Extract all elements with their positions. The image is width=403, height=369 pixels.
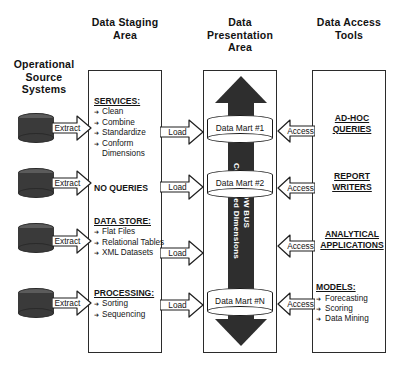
staging-block-data-store: DATA STORE: Flat Files Relational Tables… [94, 216, 164, 259]
access-tool-heading-line: ANALYTICAL [310, 229, 394, 240]
list-item: Relational Tables [94, 238, 164, 248]
staging-block-services: SERVICES: Clean Combine Standardize Conf… [94, 96, 146, 159]
list-item: Sorting [94, 299, 154, 309]
cylinder-bottom [18, 308, 54, 318]
staging-block-heading: SERVICES: [94, 96, 146, 106]
access-tool-ad-hoc-queries: AD-HOC QUERIES [316, 113, 388, 134]
access-tool-heading-line: APPLICATIONS [310, 240, 394, 251]
column-header-data-access-tools: Data Access Tools [306, 16, 392, 41]
dw-bus-label-line1: DW BUS [242, 194, 251, 228]
header-line: Operational [4, 58, 84, 71]
access-arrow: Access [277, 176, 315, 200]
staging-block-heading: DATA STORE: [94, 216, 164, 226]
arrow-head-up [215, 76, 267, 103]
list-item: XML Datasets [94, 248, 164, 258]
staging-block-no-queries: NO QUERIES [94, 183, 148, 193]
staging-block-list: Sorting Sequencing [94, 299, 154, 320]
source-database-cylinder [18, 223, 54, 253]
data-mart-cylinder: Data Mart #2 [207, 170, 273, 198]
access-tool-analytical-applications: ANALYTICAL APPLICATIONS [310, 229, 394, 250]
cylinder-bottom [207, 306, 273, 316]
column-header-data-staging-area: Data Staging Area [86, 16, 164, 41]
extract-arrow: Extract [52, 290, 92, 316]
list-item: Combine [94, 118, 146, 128]
header-line: Source [4, 71, 84, 84]
header-line: Data Access [306, 16, 392, 29]
load-arrow: Load [160, 119, 204, 145]
source-database-cylinder [18, 113, 54, 143]
access-tool-heading-line: QUERIES [316, 124, 388, 135]
list-item: Data Mining [316, 314, 394, 324]
header-line: Data [199, 16, 281, 29]
access-tool-heading-line: REPORT [316, 171, 388, 182]
access-tool-heading-line: MODELS: [316, 282, 394, 293]
access-tool-list: Forecasting Scoring Data Mining [316, 294, 394, 325]
load-arrow: Load [160, 240, 204, 266]
header-line: Systems [4, 83, 84, 96]
staging-block-heading: NO QUERIES [94, 183, 148, 193]
cylinder-bottom [207, 188, 273, 198]
extract-arrow: Extract [52, 115, 92, 141]
header-line: Presentation [199, 29, 281, 42]
access-tool-models: MODELS: Forecasting Scoring Data Mining [316, 282, 394, 325]
access-arrow: Access [277, 119, 315, 143]
cylinder-bottom [207, 133, 273, 143]
cylinder-bottom [18, 243, 54, 253]
header-line: Data Staging [86, 16, 164, 29]
data-mart-label: Data Mart #1 [207, 123, 273, 133]
staging-block-processing: PROCESSING: Sorting Sequencing [94, 288, 154, 320]
extract-arrow: Extract [52, 170, 92, 196]
data-mart-label: Data Mart #2 [207, 178, 273, 188]
access-tool-heading-line: AD-HOC [316, 113, 388, 124]
source-database-cylinder [18, 168, 54, 198]
data-mart-cylinder: Data Mart #N [207, 288, 273, 316]
data-mart-cylinder: Data Mart #1 [207, 115, 273, 143]
list-item: Scoring [316, 304, 394, 314]
load-arrow: Load [160, 174, 204, 200]
arrow-head-down [215, 319, 267, 346]
list-item: Clean [94, 107, 146, 117]
access-tool-heading-line: WRITERS [316, 182, 388, 193]
header-line: Area [199, 41, 281, 54]
staging-block-list: Flat Files Relational Tables XML Dataset… [94, 227, 164, 258]
load-arrow: Load [160, 292, 204, 318]
list-item: Conform [94, 139, 146, 149]
architecture-diagram: Operational Source Systems Data Staging … [0, 0, 403, 369]
column-header-data-presentation-area: Data Presentation Area [199, 16, 281, 54]
data-mart-label: Data Mart #N [207, 296, 273, 306]
list-item: Standardize [94, 128, 146, 138]
access-tool-report-writers: REPORT WRITERS [316, 171, 388, 192]
cylinder-bottom [18, 133, 54, 143]
access-arrow: Access [277, 292, 315, 316]
header-line: Tools [306, 29, 392, 42]
list-item-continuation: Dimensions [94, 149, 146, 159]
list-item: Sequencing [94, 310, 154, 320]
list-item: Flat Files [94, 227, 164, 237]
column-header-operational-source-systems: Operational Source Systems [4, 58, 84, 96]
extract-arrow: Extract [52, 228, 92, 254]
source-database-cylinder [18, 288, 54, 318]
list-item: Forecasting [316, 294, 394, 304]
cylinder-bottom [18, 188, 54, 198]
header-line: Area [86, 29, 164, 42]
staging-block-list: Clean Combine Standardize Conform Dimens… [94, 107, 146, 159]
staging-block-heading: PROCESSING: [94, 288, 154, 298]
